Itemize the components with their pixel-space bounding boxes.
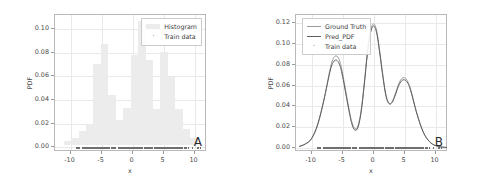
rug-tick	[373, 147, 374, 149]
histogram-bar	[86, 125, 93, 145]
x-tick-label: 10	[431, 156, 439, 164]
rug-tick	[185, 147, 186, 149]
y-tick-label: 0.08	[35, 48, 49, 56]
rug-tick	[320, 147, 321, 149]
rug-tick	[159, 147, 160, 149]
legend-label: Histogram	[164, 22, 197, 32]
rug-tick	[161, 147, 162, 149]
panel-b-x-axis-label: x	[369, 167, 373, 175]
rug-tick	[132, 147, 133, 149]
y-tick-label: 0.00	[276, 143, 290, 151]
histogram-bar	[153, 109, 160, 146]
rug-tick	[388, 147, 389, 149]
legend-item: ·Train data	[307, 42, 366, 52]
rug-tick	[337, 147, 338, 149]
rug-tick	[370, 147, 371, 149]
rug-tick	[381, 147, 382, 149]
rug-tick	[335, 147, 336, 149]
rug-tick	[192, 147, 193, 149]
x-tick-mark	[342, 151, 343, 154]
rug-tick	[390, 147, 391, 149]
x-tick-mark	[404, 151, 405, 154]
y-tick-label: 0.06	[35, 71, 49, 79]
x-tick-mark	[70, 151, 71, 154]
rug-tick	[115, 147, 116, 149]
y-tick-mark	[51, 75, 54, 76]
rug-tick	[87, 147, 88, 149]
x-tick-label: 0	[130, 156, 134, 164]
rug-tick	[391, 147, 392, 149]
rug-tick	[140, 147, 141, 149]
panel-a-tag: A	[194, 135, 202, 149]
rug-tick	[355, 147, 356, 149]
y-tick-mark	[292, 126, 295, 127]
train-data-rug-a	[55, 146, 205, 150]
y-tick-mark	[292, 85, 295, 86]
rug-tick	[324, 147, 325, 149]
y-tick-label: 0.10	[35, 24, 49, 32]
rug-tick	[374, 147, 375, 149]
rug-tick	[376, 147, 377, 149]
rug-tick	[421, 147, 422, 149]
y-tick-label: 0.08	[276, 60, 290, 68]
x-tick-mark	[435, 151, 436, 154]
rug-tick	[356, 147, 357, 149]
rug-tick	[181, 147, 182, 149]
y-tick-label: 0.04	[35, 95, 49, 103]
x-tick-mark	[132, 151, 133, 154]
rug-tick	[398, 147, 399, 149]
rug-tick	[380, 147, 381, 149]
rug-tick	[415, 147, 416, 149]
legend-label: Train data	[325, 42, 356, 52]
rug-tick	[395, 147, 396, 149]
histogram-bar	[93, 64, 100, 145]
rug-tick	[418, 147, 419, 149]
panel-a-axes: Histogram·Train data A	[54, 14, 206, 151]
panel-b-legend: Ground TruthPred_PDF·Train data	[302, 18, 371, 55]
rug-tick	[103, 147, 104, 149]
rug-tick	[184, 147, 185, 149]
rug-tick	[402, 147, 403, 149]
rug-tick	[106, 147, 107, 149]
rug-tick	[177, 147, 178, 149]
x-tick-mark	[163, 151, 164, 154]
histogram-bar	[183, 129, 190, 145]
rug-tick	[413, 147, 414, 149]
rug-tick	[433, 147, 434, 149]
y-tick-mark	[292, 64, 295, 65]
y-tick-label: 0.04	[276, 101, 290, 109]
x-tick-label: -5	[338, 156, 344, 164]
y-tick-mark	[292, 22, 295, 23]
legend-label: Pred_PDF	[325, 32, 354, 42]
legend-dot-swatch: ·	[146, 34, 160, 39]
legend-item: Histogram	[146, 22, 197, 32]
rug-tick	[362, 147, 363, 149]
panel-b-density-curves: Ground TruthPred_PDF·Train data B 0.000.…	[241, 0, 482, 196]
histogram-bar	[71, 138, 78, 145]
histogram-bar	[146, 60, 153, 145]
rug-tick	[89, 147, 90, 149]
rug-tick	[83, 147, 84, 149]
histogram-bar	[64, 141, 71, 145]
x-tick-mark	[311, 151, 312, 154]
panel-a-x-axis-label: x	[128, 167, 132, 175]
rug-tick	[135, 147, 136, 149]
histogram-bar	[160, 52, 167, 145]
rug-tick	[139, 147, 140, 149]
histogram-bar	[108, 95, 115, 146]
y-tick-label: 0.06	[276, 81, 290, 89]
legend-dot-swatch: ·	[307, 44, 321, 49]
rug-tick	[147, 147, 148, 149]
rug-tick	[149, 147, 150, 149]
panel-b-tag: B	[435, 135, 443, 149]
x-tick-mark	[373, 151, 374, 154]
x-tick-label: -10	[64, 156, 74, 164]
rug-tick	[410, 147, 411, 149]
rug-tick	[76, 147, 77, 149]
y-tick-label: 0.10	[276, 39, 290, 47]
legend-item: Pred_PDF	[307, 32, 366, 42]
rug-tick	[364, 147, 365, 149]
rug-tick	[128, 147, 129, 149]
x-tick-label: 5	[161, 156, 165, 164]
histogram-bar	[131, 55, 138, 145]
